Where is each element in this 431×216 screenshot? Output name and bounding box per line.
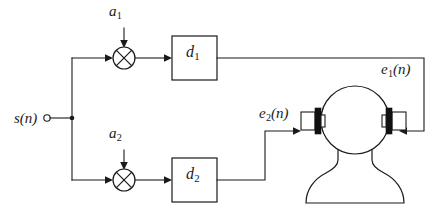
label-gain-a2: a2 <box>109 126 122 143</box>
arrowhead-bottom-multiplier-input <box>105 176 113 184</box>
left-ear-speaker-cap <box>321 115 325 127</box>
label-filter-d1: d1 <box>186 44 200 62</box>
right-ear-speaker-cap <box>382 115 386 127</box>
label-output-e1: e1(n) <box>381 62 410 79</box>
label-output-e2: e2(n) <box>259 106 288 123</box>
diagram-svg <box>0 0 431 216</box>
arrowhead-left-ear-input <box>293 127 301 135</box>
left-ear-speaker-body <box>301 112 315 130</box>
arrowhead-d1-input <box>164 54 172 62</box>
input-terminal-circle <box>44 115 50 121</box>
right-ear-speaker-body <box>392 112 406 130</box>
label-filter-d2: d2 <box>186 166 200 184</box>
arrowhead-top-multiplier-input <box>105 54 113 62</box>
block-diagram-canvas: s(n) a1 a2 d1 d2 e1(n) e2(n) <box>0 0 431 216</box>
wire-d2-to-left-ear <box>217 131 294 180</box>
label-input-signal: s(n) <box>14 111 37 126</box>
listener-head-circle <box>321 86 389 154</box>
label-gain-a1: a1 <box>109 4 122 21</box>
right-ear-speaker-bar <box>386 108 392 134</box>
left-ear-speaker-bar <box>315 108 321 134</box>
arrowhead-d2-input <box>164 176 172 184</box>
